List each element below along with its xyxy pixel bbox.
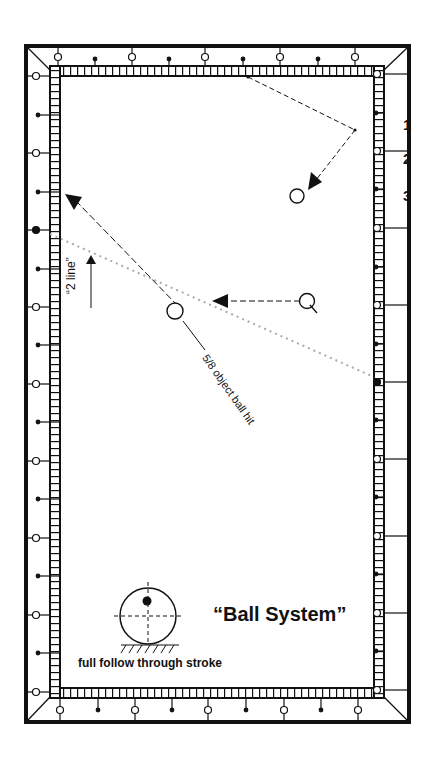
follow-stroke-icon [114,582,182,653]
cue-ball [300,294,315,309]
bottom-diamonds [57,698,362,720]
diamond-number-2: 2 [403,150,411,167]
top-diamonds [55,48,359,66]
two-line-label: “2 line” [64,257,78,294]
object-ball [167,303,183,319]
ball-upper [290,189,304,203]
arrowhead-icon [65,194,82,210]
stroke-caption: full follow through stroke [78,656,222,670]
arrowhead-icon [86,255,96,264]
hit-label-leader [183,321,205,350]
diamond-number-3: 3 [403,187,411,204]
kick-path [248,77,355,180]
arrowhead-icon [212,294,228,308]
diamond-number-1: 1 [403,116,411,133]
object-ball-path [78,203,178,306]
diagram-title: “Ball System” [213,603,346,626]
